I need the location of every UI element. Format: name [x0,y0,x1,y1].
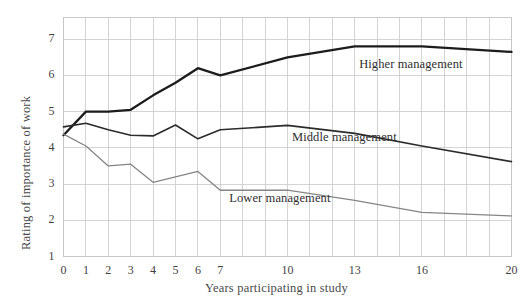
x-tick-label: 7 [208,263,232,278]
grid-lines [64,18,512,257]
x-tick-label: 13 [343,263,367,278]
y-tick-label: 2 [35,212,55,227]
series-label-higher-management: Higher management [359,57,462,72]
x-tick-label: 16 [410,263,434,278]
x-tick-label: 6 [186,263,210,278]
y-tick-label: 6 [35,67,55,82]
y-axis-title: Rating of importance of work [19,96,34,250]
line-chart: 1234567 0123456710131620 Higher manageme… [0,0,527,308]
x-tick-label: 2 [96,263,120,278]
series-label-lower-management: Lower management [229,191,330,206]
x-tick-label: 20 [500,263,524,278]
y-tick-label: 7 [35,31,55,46]
x-axis-title: Years participating in study [205,281,348,296]
series-label-middle-management: Middle management [292,130,397,145]
x-tick-label: 3 [119,263,143,278]
x-tick-label: 5 [164,263,188,278]
x-tick-label: 1 [74,263,98,278]
y-tick-label: 5 [35,104,55,119]
y-tick-label: 4 [35,140,55,155]
y-tick-label: 1 [35,249,55,264]
x-tick-label: 10 [276,263,300,278]
x-tick-label: 0 [52,263,76,278]
y-tick-label: 3 [35,176,55,191]
x-tick-label: 4 [141,263,165,278]
